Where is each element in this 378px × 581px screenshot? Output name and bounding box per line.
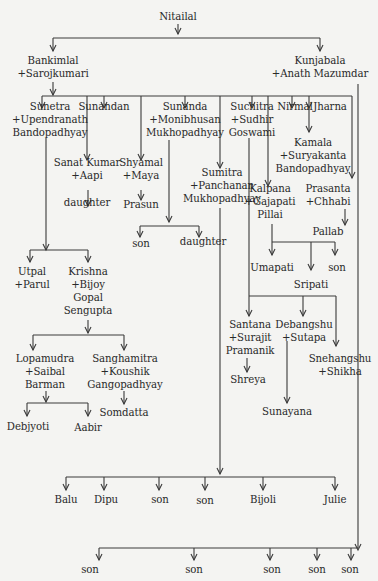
person-kunja-son4: son	[308, 563, 326, 576]
person-name-line: +Koushik	[87, 365, 163, 378]
person-prasanta: Prasanta+Chhabi	[305, 182, 350, 208]
person-bankimlal: Bankimlal+Sarojkumari	[17, 54, 88, 80]
person-sananda: Sunanda+MonibhusanMukhopadhyay	[146, 100, 224, 139]
person-kunja-son5: son	[341, 563, 359, 576]
person-name: Sanghamitra	[87, 352, 163, 365]
person-name-line: +Aapi	[54, 169, 120, 182]
person-suchitra: Suchitra+SudhirGoswami	[229, 100, 276, 139]
person-name: Sripati	[294, 278, 328, 291]
person-aabir: Aabir	[74, 421, 102, 434]
person-bijoli: Bijoli	[250, 493, 276, 506]
person-name: Debjyoti	[7, 420, 49, 433]
person-name: son	[341, 563, 359, 576]
person-shyamal: Shyamal+Maya	[119, 156, 163, 182]
person-name-line: Pramanik	[226, 344, 275, 357]
person-name-line: +Suryakanta	[276, 149, 351, 162]
person-name: Aabir	[74, 421, 102, 434]
person-kalpana: Kalpana+GajapatiPillai	[244, 182, 295, 221]
person-name: Suchitra	[229, 100, 276, 113]
person-somdatta: Somdatta	[100, 406, 149, 419]
person-name: daughter	[64, 196, 110, 209]
person-name: son	[328, 261, 346, 274]
person-name: Bijoli	[250, 493, 276, 506]
person-name: Prasanta	[305, 182, 350, 195]
person-name-line: Sengupta	[64, 304, 113, 317]
person-suchitra-son1: son	[151, 493, 169, 506]
person-name-line: +Surajit	[226, 331, 275, 344]
person-kunja-son3: son	[263, 563, 281, 576]
person-debangshu: Debangshu+Sutapa	[275, 318, 332, 344]
person-sripati: Sripati	[294, 278, 328, 291]
person-name: Julie	[324, 493, 347, 506]
person-kunjabala: Kunjabala+Anath Mazumdar	[272, 54, 368, 80]
person-name: Lopamudra	[16, 352, 74, 365]
person-name-line: Pillai	[244, 208, 295, 221]
person-name-line: Mukhopadhyay	[146, 126, 224, 139]
person-kunja-son1: son	[81, 563, 99, 576]
person-name: Sunayana	[262, 405, 312, 418]
person-jharna: Jharna	[313, 100, 347, 113]
person-umapati: Umapati	[250, 261, 294, 274]
person-krishna: Krishna+BijoyGopalSengupta	[64, 265, 113, 317]
person-name: Pallab	[313, 225, 344, 238]
person-name: Umapati	[250, 261, 294, 274]
person-name-line: +Monibhusan	[146, 113, 224, 126]
person-name: Jharna	[313, 100, 347, 113]
person-name-line: +Sutapa	[275, 331, 332, 344]
person-name: Nitailal	[159, 10, 196, 23]
person-name: daughter	[180, 235, 226, 248]
person-name-line: +Gajapati	[244, 195, 295, 208]
person-name-line: +Chhabi	[305, 195, 350, 208]
person-name-line: Bandopadhyay	[12, 126, 88, 139]
person-name-line: Barman	[16, 378, 74, 391]
person-sanghamitra: Sanghamitra+KoushikGangopadhyay	[87, 352, 163, 391]
person-pallab: Pallab	[313, 225, 344, 238]
person-name-line: Goswami	[229, 126, 276, 139]
person-sunayana: Sunayana	[262, 405, 312, 418]
person-name: Krishna	[64, 265, 113, 278]
person-name: Somdatta	[100, 406, 149, 419]
person-prasun: Prasun	[123, 198, 159, 211]
person-name-line: +Upendranath	[12, 113, 88, 126]
person-name-line: +Bijoy	[64, 278, 113, 291]
person-name-line: Bandopadhyay	[276, 162, 351, 175]
person-kalpana-son: son	[328, 261, 346, 274]
person-name: Dipu	[94, 493, 118, 506]
person-name-line: Gangopadhyay	[87, 378, 163, 391]
person-kunja-son2: son	[185, 563, 203, 576]
person-sunandan: Sunandan	[78, 100, 129, 113]
person-santana: Santana+SurajitPramanik	[226, 318, 275, 357]
person-julie: Julie	[324, 493, 347, 506]
person-name: Kalpana	[244, 182, 295, 195]
person-name-line: +Saibal	[16, 365, 74, 378]
person-name-line: Gopal	[64, 291, 113, 304]
person-name: Kamala	[276, 136, 351, 149]
person-name: Sunanda	[146, 100, 224, 113]
person-nitailal: Nitailal	[159, 10, 196, 23]
person-name: Utpal	[14, 265, 49, 278]
person-snehangshu: Snehangshu+Shikha	[309, 352, 372, 378]
person-name: son	[308, 563, 326, 576]
person-dipu: Dipu	[94, 493, 118, 506]
person-name: Prasun	[123, 198, 159, 211]
person-name: Kunjabala	[272, 54, 368, 67]
person-name: son	[151, 493, 169, 506]
person-name: son	[132, 237, 150, 250]
person-name: son	[81, 563, 99, 576]
person-name: Shreya	[230, 373, 266, 386]
person-name: Santana	[226, 318, 275, 331]
person-sumitra-son: son	[132, 237, 150, 250]
person-name: Bankimlal	[17, 54, 88, 67]
person-name-line: +Anath Mazumdar	[272, 67, 368, 80]
person-name-line: +Maya	[119, 169, 163, 182]
person-name: Sunetra	[12, 100, 88, 113]
person-name: Sumitra	[183, 166, 261, 179]
person-lopamudra: Lopamudra+SaibalBarman	[16, 352, 74, 391]
person-suchitra-son2: son	[196, 494, 214, 507]
person-nirmal: Nirmal	[277, 100, 312, 113]
person-name: Nirmal	[277, 100, 312, 113]
person-sanat: Sanat Kumar+Aapi	[54, 156, 120, 182]
person-name: Sunandan	[78, 100, 129, 113]
person-name: son	[196, 494, 214, 507]
person-utpal: Utpal+Parul	[14, 265, 49, 291]
